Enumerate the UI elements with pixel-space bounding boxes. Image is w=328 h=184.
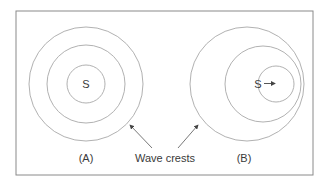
panel-label-b: (B) (237, 152, 252, 164)
wave-crest-middle (225, 46, 301, 122)
wave-crest-outer (190, 27, 304, 141)
panel-b: S (B) (190, 27, 304, 164)
pointer-arrow-right-icon (178, 125, 198, 148)
source-label-a: S (82, 78, 89, 90)
source-label-b: S (254, 78, 261, 90)
doppler-diagram: S (A) S (B) Wave crests (0, 0, 328, 184)
panel-label-a: (A) (79, 152, 94, 164)
wave-crests-label: Wave crests (135, 152, 196, 164)
wave-crest-inner (258, 66, 294, 102)
annotation: Wave crests (130, 125, 198, 164)
pointer-arrow-left-icon (130, 125, 152, 148)
frame-border (16, 11, 313, 175)
panel-a: S (A) (29, 27, 143, 164)
